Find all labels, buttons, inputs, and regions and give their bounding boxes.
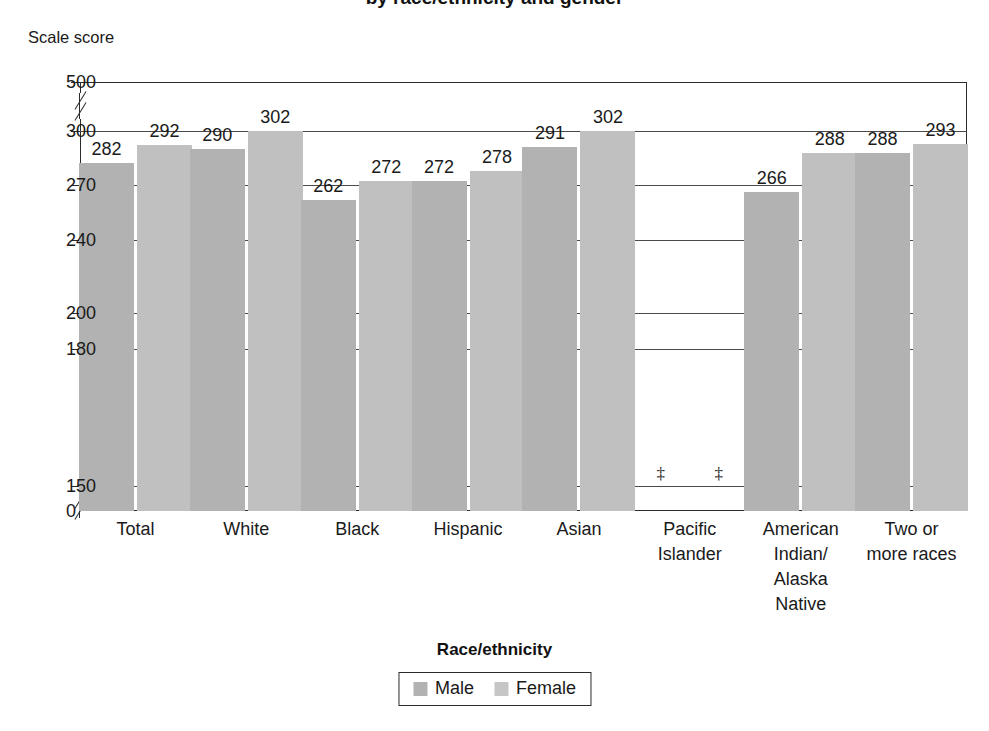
bar xyxy=(913,144,968,511)
legend-item[interactable]: Female xyxy=(494,678,576,699)
x-axis-category-line: Pacific xyxy=(658,517,722,542)
legend-label: Female xyxy=(516,678,576,699)
suppressed-data-marker: ‡ xyxy=(715,464,724,484)
x-axis-category-line: Indian/ xyxy=(763,542,839,567)
plot-area: 282292290302262272272278291302‡‡26628828… xyxy=(80,82,967,511)
x-axis-category-line: American xyxy=(763,517,839,542)
bar-value-label: 292 xyxy=(149,121,179,142)
x-axis-category-label: Two ormore races xyxy=(867,517,957,567)
x-axis-category-label: Asian xyxy=(556,517,601,542)
bar-value-label: 262 xyxy=(313,176,343,197)
bar xyxy=(137,145,192,511)
bar xyxy=(855,153,910,511)
x-axis-category-label: Hispanic xyxy=(434,517,503,542)
legend-item[interactable]: Male xyxy=(413,678,474,699)
legend-swatch-male xyxy=(413,682,427,696)
bar xyxy=(470,171,525,511)
x-axis-category-label: PacificIslander xyxy=(658,517,722,567)
bar-value-label: 288 xyxy=(868,129,898,150)
x-axis-category-label: Black xyxy=(335,517,379,542)
chart-legend: MaleFemale xyxy=(398,672,591,706)
bar-value-label: 288 xyxy=(815,129,845,150)
x-axis-category-line: Two or xyxy=(867,517,957,542)
bar xyxy=(359,181,414,511)
bar xyxy=(301,200,356,511)
x-axis-category-line: Hispanic xyxy=(434,517,503,542)
bar-value-label: 272 xyxy=(424,157,454,178)
bar-value-label: 272 xyxy=(371,157,401,178)
bar-value-label: 291 xyxy=(535,123,565,144)
bar xyxy=(79,163,134,511)
x-axis-category-line: Total xyxy=(116,517,154,542)
bar-value-label: 282 xyxy=(91,139,121,160)
x-axis-category-label: Total xyxy=(116,517,154,542)
legend-swatch-female xyxy=(494,682,508,696)
bar-value-label: 266 xyxy=(757,168,787,189)
x-axis-category-line: Asian xyxy=(556,517,601,542)
bar xyxy=(522,147,577,511)
x-axis-title: Race/ethnicity xyxy=(0,640,989,660)
x-axis-category-line: Alaska xyxy=(763,567,839,592)
x-axis-category-label: White xyxy=(223,517,269,542)
bar xyxy=(412,181,467,511)
suppressed-data-marker: ‡ xyxy=(657,464,666,484)
bar xyxy=(190,149,245,511)
bar xyxy=(248,131,303,511)
bar xyxy=(802,153,857,511)
bar-value-label: 302 xyxy=(260,107,290,128)
bar xyxy=(580,131,635,511)
x-axis-category-line: Native xyxy=(763,592,839,617)
x-axis-category-label: AmericanIndian/AlaskaNative xyxy=(763,517,839,617)
chart-title: by race/ethnicity and gender xyxy=(0,0,989,9)
y-axis-label: Scale score xyxy=(28,28,114,47)
x-axis-category-line: Islander xyxy=(658,542,722,567)
x-axis-category-line: more races xyxy=(867,542,957,567)
x-axis-category-line: White xyxy=(223,517,269,542)
bar-value-label: 278 xyxy=(482,147,512,168)
bar-value-label: 302 xyxy=(593,107,623,128)
bar-value-label: 290 xyxy=(202,125,232,146)
legend-label: Male xyxy=(435,678,474,699)
x-axis-category-line: Black xyxy=(335,517,379,542)
bar xyxy=(744,192,799,511)
y-axis-break xyxy=(69,93,92,119)
bar-value-label: 293 xyxy=(926,120,956,141)
